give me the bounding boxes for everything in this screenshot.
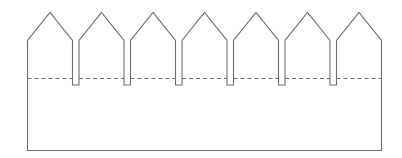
crown-template-diagram: [0, 0, 402, 158]
crown-outline: [28, 13, 382, 151]
